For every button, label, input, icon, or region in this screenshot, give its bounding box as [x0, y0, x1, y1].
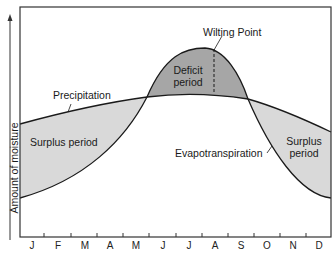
month-label: M [128, 240, 144, 251]
moisture-chart [0, 0, 336, 257]
surplus-right-line1: Surplus [282, 135, 326, 147]
y-axis-label: Amount of moisture [8, 118, 20, 218]
deficit-label-line2: period [168, 76, 208, 88]
precipitation-label: Precipitation [53, 89, 111, 101]
deficit-label-line1: Deficit [168, 64, 208, 76]
surplus-right-line2: period [282, 147, 326, 159]
arrow-up-icon [8, 14, 13, 21]
wilting-point-label: Wilting Point [203, 26, 261, 38]
month-label: F [50, 240, 66, 251]
month-label: N [285, 240, 301, 251]
month-label: A [207, 240, 223, 251]
month-label: S [233, 240, 249, 251]
x-axis-ticks [44, 233, 306, 237]
evapotranspiration-label: Evapotranspiration [175, 147, 263, 159]
wilting-point-leader [214, 36, 222, 50]
month-label: J [155, 240, 171, 251]
evapotranspiration-leader [267, 146, 272, 153]
deficit-period-label: Deficit period [168, 64, 208, 88]
month-label: D [311, 240, 327, 251]
month-label: J [24, 240, 40, 251]
month-label: J [181, 240, 197, 251]
surplus-period-left-label: Surplus period [30, 136, 98, 148]
surplus-period-right-label: Surplus period [282, 135, 326, 159]
month-label: O [259, 240, 275, 251]
month-label: A [102, 240, 118, 251]
month-label: M [77, 240, 93, 251]
